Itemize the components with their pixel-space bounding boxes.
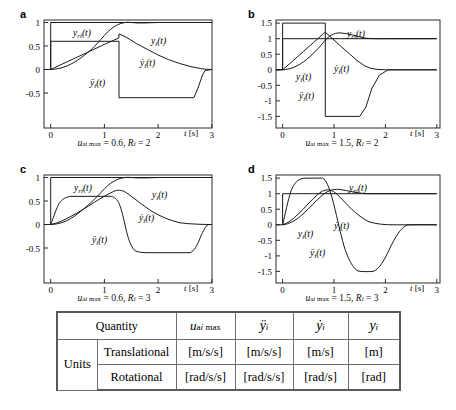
panel-a-label-yr: yri(t) — [72, 28, 91, 40]
panel-c-plot: c 1 0.5 0 -0.5 0 1 2 3 — [0, 155, 228, 295]
table-units-label: Units — [57, 340, 97, 391]
panel-d-ytick-5: -0.5 — [258, 236, 273, 246]
table-cell-rot-yddot: [rad/s/s] — [235, 365, 293, 391]
panel-a-xlabel: t [s] — [184, 128, 198, 138]
panel-d-ytick-1: 1.5 — [261, 173, 273, 183]
panel-c-ytick-1: 1 — [36, 173, 41, 183]
panel-c-label-ydot: ẏi(t) — [138, 213, 154, 225]
table-header-quantity: Quantity — [57, 312, 176, 340]
panel-b-label-y: yi(t) — [295, 72, 311, 84]
panel-a-frame — [44, 20, 212, 128]
panel-d-ytick-2: 1 — [268, 189, 273, 199]
table-header-umax: uai max — [176, 312, 235, 340]
panel-d-ytick-4: 0 — [268, 220, 273, 230]
panel-a-yticks: 1 0.5 0 -0.5 — [26, 18, 48, 99]
panel-c-xlabel: t [s] — [184, 283, 198, 293]
panel-d-curve-yr — [276, 194, 437, 225]
table-cell-trans-y: [m] — [348, 340, 400, 365]
panel-c-ytick-3: 0 — [36, 220, 41, 230]
panel-a: a 1 0.5 0 -0.5 0 1 2 — [0, 0, 228, 155]
panel-c-caption: uai max = 0.6, Ri = 3 — [0, 293, 228, 303]
figure-root: a 1 0.5 0 -0.5 0 1 2 — [0, 0, 456, 410]
panel-c-label-yr: yri(t) — [73, 183, 92, 195]
units-table: Quantity uai max ÿi ẏi yi Units — [56, 311, 401, 391]
table-row-label-translational: Translational — [97, 340, 176, 365]
table-cell-trans-ydot: [m/s] — [293, 340, 348, 365]
panel-d-letter: d — [248, 163, 255, 175]
panel-d: d 1.5 1 0.5 0 -0.5 -1 -1.5 — [228, 155, 456, 310]
panel-d-label-ydot: ẏi(t) — [333, 221, 349, 233]
panel-b-xlabel: t [s] — [410, 128, 424, 138]
panel-b-ytick-5: -0.5 — [258, 81, 273, 91]
panel-b-ytick-7: -1.5 — [258, 112, 273, 122]
table-cell-rot-ydot: [rad/s] — [293, 365, 348, 391]
table-row-label-rotational: Rotational — [97, 365, 176, 391]
panel-a-ytick-3: 0 — [36, 65, 41, 75]
panel-d-xlabel: t [s] — [410, 283, 424, 293]
panel-b-ytick-3: 0.5 — [261, 50, 273, 60]
panel-b-label-ydot: ẏi(t) — [333, 64, 349, 76]
panel-d-ytick-6: -1 — [265, 251, 273, 261]
panel-d-label-yddot: ÿi(t) — [309, 248, 325, 260]
units-table-wrapper: Quantity uai max ÿi ẏi yi Units — [56, 311, 399, 391]
table-header-row: Quantity uai max ÿi ẏi yi — [57, 312, 400, 340]
table-cell-trans-umax: [m/s/s] — [176, 340, 235, 365]
panel-b-letter: b — [248, 8, 255, 20]
table-cell-rot-y: [rad] — [348, 365, 400, 391]
panel-c-label-yddot: ÿi(t) — [91, 235, 107, 247]
table-header-yddot: ÿi — [235, 312, 293, 340]
panel-a-label-y: yi(t) — [150, 36, 166, 48]
panel-b-ytick-2: 1 — [268, 34, 273, 44]
panel-d-caption: uai max = 1.5, Ri = 3 — [228, 293, 456, 303]
panel-a-caption: uai max = 0.6, Ri = 2 — [0, 138, 228, 148]
panel-a-label-yddot: ÿi(t) — [89, 78, 105, 90]
panel-c-ytick-2: 0.5 — [29, 197, 41, 207]
panel-a-curve-yr — [44, 23, 212, 70]
panel-d-label-y: yi(t) — [297, 229, 313, 241]
panel-c-ytick-4: -0.5 — [26, 244, 41, 254]
panel-c-yticks: 1 0.5 0 -0.5 — [26, 173, 48, 254]
panel-a-ytick-1: 1 — [36, 18, 41, 28]
table-header-y: yi — [348, 312, 400, 340]
panel-b: b 1.5 1 0.5 0 -0.5 -1 -1.5 — [228, 0, 456, 155]
panel-b-ytick-6: -1 — [265, 96, 273, 106]
panel-a-ytick-4: -0.5 — [26, 89, 41, 99]
panel-c: c 1 0.5 0 -0.5 0 1 2 3 — [0, 155, 228, 310]
panel-a-curve-yddot — [44, 41, 212, 97]
panel-c-curve-ydot — [51, 190, 212, 224]
panel-c-curve-yddot — [51, 196, 212, 252]
panel-b-caption: uai max = 1.5, Ri = 2 — [228, 138, 456, 148]
panel-c-label-y: yi(t) — [151, 190, 167, 202]
table-row: Rotational [rad/s/s] [rad/s/s] [rad/s] [… — [57, 365, 400, 391]
panel-d-ytick-3: 0.5 — [261, 205, 273, 215]
panel-d-plot: d 1.5 1 0.5 0 -0.5 -1 -1.5 — [228, 155, 456, 295]
table-cell-trans-yddot: [m/s/s] — [235, 340, 293, 365]
panel-a-label-ydot: ẏi(t) — [139, 58, 155, 70]
panel-b-ytick-4: 0 — [268, 65, 273, 75]
panel-b-ytick-1: 1.5 — [261, 18, 273, 28]
panel-d-ytick-7: -1.5 — [258, 267, 273, 277]
panel-d-curve-ydot — [283, 190, 437, 225]
panel-c-letter: c — [20, 163, 26, 175]
panel-a-letter: a — [20, 8, 27, 20]
table-header-ydot: ẏi — [293, 312, 348, 340]
table-row: Units Translational [m/s/s] [m/s/s] [m/s… — [57, 340, 400, 365]
panel-a-plot: a 1 0.5 0 -0.5 0 1 2 — [0, 0, 228, 140]
panel-b-plot: b 1.5 1 0.5 0 -0.5 -1 -1.5 — [228, 0, 456, 140]
panel-b-label-yddot: ÿi(t) — [298, 91, 314, 103]
table-cell-rot-umax: [rad/s/s] — [176, 365, 235, 391]
panel-a-ytick-2: 0.5 — [29, 42, 41, 52]
panel-c-frame — [44, 175, 212, 283]
panel-a-curve-ydot — [51, 34, 212, 70]
